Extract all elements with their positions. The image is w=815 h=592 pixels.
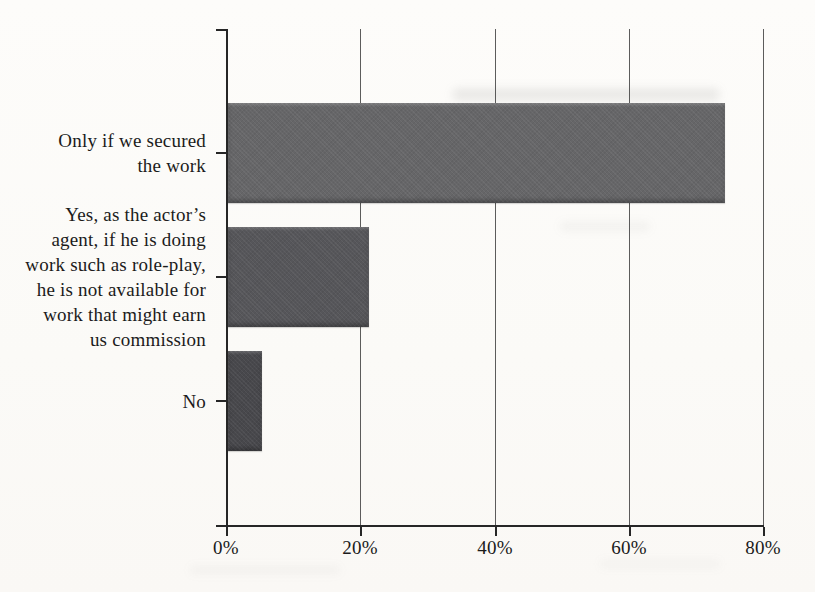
- category-axis-top-tick: [216, 29, 228, 31]
- x-tick-label: 0%: [213, 537, 239, 559]
- scanned-page: 0%20%40%60%80%Only if we secured the wor…: [0, 0, 815, 592]
- x-axis-tick: [763, 527, 765, 536]
- bar-3: [228, 351, 262, 451]
- category-axis-tick: [216, 152, 226, 154]
- x-axis-tick: [495, 527, 497, 536]
- bar-2: [228, 227, 369, 327]
- bar-chart: 0%20%40%60%80%Only if we secured the wor…: [0, 0, 815, 592]
- bar-1: [228, 103, 725, 203]
- x-tick-label: 20%: [342, 537, 378, 559]
- category-label-3: No: [0, 389, 206, 414]
- x-tick-label: 40%: [477, 537, 513, 559]
- category-axis-tick: [216, 400, 226, 402]
- x-axis-tick: [629, 527, 631, 536]
- gridline-80%: [763, 29, 764, 525]
- x-axis-line: [216, 525, 764, 527]
- category-label-1: Only if we secured the work: [0, 128, 206, 178]
- category-axis-tick: [216, 276, 226, 278]
- x-tick-label: 80%: [745, 537, 781, 559]
- x-axis-tick: [226, 527, 228, 536]
- x-axis-tick: [360, 527, 362, 536]
- x-tick-label: 60%: [611, 537, 647, 559]
- category-label-2: Yes, as the actor’s agent, if he is doin…: [0, 202, 206, 352]
